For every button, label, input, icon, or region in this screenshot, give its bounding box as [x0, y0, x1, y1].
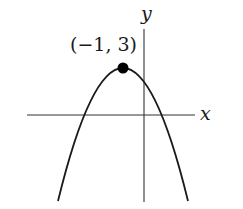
y-axis-label: y — [140, 2, 152, 24]
x-axis-label: x — [200, 102, 211, 124]
vertex-point — [118, 63, 129, 74]
vertex-label: (−1, 3) — [70, 33, 137, 55]
parabola-diagram: x y (−1, 3) — [0, 0, 243, 209]
parabola-curve — [58, 68, 188, 201]
